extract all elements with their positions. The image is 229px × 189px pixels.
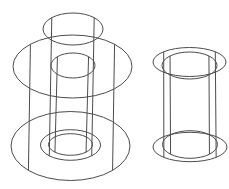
middle-tall-cylinder-left-isoline	[49, 18, 52, 156]
outer-flange-cylinder	[11, 35, 132, 181]
right-pipe-assembly	[153, 48, 227, 162]
inner-bore-cylinder-left-isoline	[55, 57, 58, 152]
pipe-inner-wall-cylinder-left-isoline	[170, 56, 171, 154]
pipe-inner-wall-cylinder-right-isoline	[209, 56, 210, 154]
left-cylinder-assembly	[11, 13, 132, 181]
wireframe-drawing	[0, 0, 229, 189]
pipe-outer-wall-cylinder	[153, 48, 227, 162]
drawing-area	[0, 0, 229, 189]
pipe-inner-wall-cylinder	[162, 52, 218, 158]
outer-flange-cylinder-right-isoline	[113, 44, 115, 170]
pipe-outer-wall-cylinder-right-isoline	[215, 52, 216, 158]
inner-bore-cylinder	[49, 53, 96, 155]
outer-flange-cylinder-left-isoline	[28, 44, 30, 170]
